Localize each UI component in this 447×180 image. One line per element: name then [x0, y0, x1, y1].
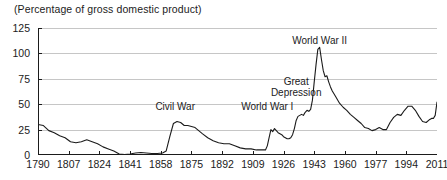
- annotation-line: Depression: [271, 87, 322, 99]
- annotation-label: World War II: [292, 35, 347, 47]
- chart-figure: (Percentage of gross domestic product) 0…: [0, 0, 447, 180]
- x-tick-label: 1994: [395, 158, 418, 170]
- gridlines: [38, 29, 437, 131]
- x-tick-label: 1807: [57, 158, 80, 170]
- x-tick-label: 1943: [303, 158, 326, 170]
- annotation-label: Civil War: [155, 101, 195, 113]
- chart-title: (Percentage of gross domestic product): [14, 3, 202, 15]
- y-tick-label: 100: [0, 47, 30, 59]
- x-tick-label: 1960: [333, 158, 356, 170]
- x-tick-label: 1977: [364, 158, 387, 170]
- x-tick-label: 1892: [210, 158, 233, 170]
- x-tick-label: 1824: [88, 158, 111, 170]
- plot-svg: [38, 28, 437, 155]
- x-tick-label: 1790: [26, 158, 49, 170]
- y-tick-label: 50: [0, 98, 30, 110]
- x-tick-label: 1875: [180, 158, 203, 170]
- x-tick-label: 1858: [149, 158, 172, 170]
- annotation-line: Great: [271, 76, 322, 88]
- plot-area: [38, 28, 437, 155]
- annotation-label: World War I: [241, 101, 293, 113]
- annotation-label: GreatDepression: [271, 76, 322, 99]
- y-tick-label: 25: [0, 124, 30, 136]
- y-tick-label: 125: [0, 22, 30, 34]
- data-line-series: [38, 47, 437, 154]
- x-tick-label: 1909: [241, 158, 264, 170]
- x-tick-label: 1841: [118, 158, 141, 170]
- y-tick-label: 75: [0, 73, 30, 85]
- x-tick-label: 1926: [272, 158, 295, 170]
- x-tick-label: 2011: [426, 158, 447, 170]
